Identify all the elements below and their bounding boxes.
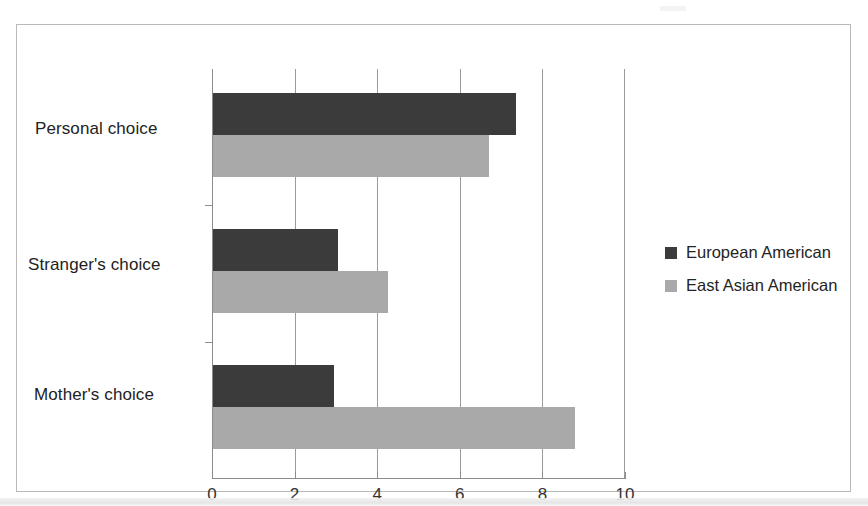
bar-mothers-choice-european-american[interactable] xyxy=(212,365,334,407)
category-label-personal-choice: Personal choice xyxy=(35,119,205,139)
y-axis-tick-2 xyxy=(205,342,212,343)
screenshot-root: Personal choice Stranger's choice Mother… xyxy=(0,0,868,506)
bar-strangers-choice-european-american[interactable] xyxy=(212,229,338,271)
legend-swatch-icon-european-american xyxy=(665,247,677,259)
legend-item-european-american[interactable]: European American xyxy=(665,243,855,262)
legend-swatch-icon-east-asian-american xyxy=(665,280,677,292)
x-axis-tick-4 xyxy=(377,472,378,479)
y-axis-line xyxy=(212,69,213,479)
x-axis-tick-10 xyxy=(625,472,626,479)
legend-label-european-american: European American xyxy=(686,243,831,262)
x-axis-tick-2 xyxy=(295,472,296,479)
gridline-10 xyxy=(624,69,625,478)
bar-personal-choice-east-asian-american[interactable] xyxy=(212,135,489,177)
chart-legend: European American East Asian American xyxy=(665,243,855,309)
y-axis-tick-1 xyxy=(205,205,212,206)
x-axis-tick-8 xyxy=(542,472,543,479)
plot-area xyxy=(212,69,625,478)
chart-frame: Personal choice Stranger's choice Mother… xyxy=(16,24,851,492)
x-axis-tick-6 xyxy=(460,472,461,479)
x-axis-tick-0 xyxy=(212,472,213,479)
category-label-mothers-choice: Mother's choice xyxy=(34,385,204,405)
bar-personal-choice-european-american[interactable] xyxy=(212,93,516,135)
x-axis-line xyxy=(212,478,626,479)
bar-strangers-choice-east-asian-american[interactable] xyxy=(212,271,388,313)
legend-item-east-asian-american[interactable]: East Asian American xyxy=(665,276,855,295)
bar-mothers-choice-east-asian-american[interactable] xyxy=(212,407,575,449)
legend-label-east-asian-american: East Asian American xyxy=(686,276,837,295)
category-label-strangers-choice: Stranger's choice xyxy=(28,255,198,275)
scan-artifact-bottom xyxy=(0,498,868,506)
scan-artifact-top xyxy=(660,6,686,11)
